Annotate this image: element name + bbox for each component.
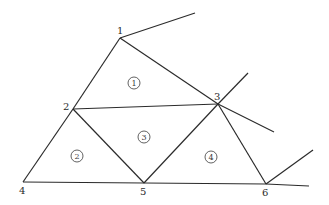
open-edge-from-6 bbox=[266, 150, 313, 184]
node-label-2: 2 bbox=[63, 101, 69, 112]
open-edge-from-6 bbox=[266, 184, 309, 186]
edge-1-2 bbox=[73, 38, 120, 109]
edge-2-5 bbox=[73, 109, 144, 183]
node-label-5: 5 bbox=[140, 186, 146, 197]
element-number: 3 bbox=[141, 133, 146, 142]
edge-2-3 bbox=[73, 104, 218, 109]
mesh-diagram: 1234 123456 bbox=[0, 0, 329, 205]
element-marker-3: 3 bbox=[138, 131, 150, 143]
mesh-edges bbox=[23, 38, 266, 184]
element-marker-4: 4 bbox=[205, 151, 217, 163]
element-number: 4 bbox=[208, 153, 213, 162]
element-number: 1 bbox=[131, 79, 136, 88]
element-labels: 1234 bbox=[71, 77, 217, 163]
node-label-6: 6 bbox=[262, 187, 268, 198]
node-label-3: 3 bbox=[214, 91, 220, 102]
node-label-1: 1 bbox=[117, 25, 123, 36]
node-label-4: 4 bbox=[19, 185, 25, 196]
edge-3-5 bbox=[144, 104, 218, 183]
element-marker-2: 2 bbox=[71, 150, 83, 162]
open-edge-from-1 bbox=[120, 13, 195, 38]
edge-1-3 bbox=[120, 38, 218, 104]
element-marker-1: 1 bbox=[128, 77, 140, 89]
element-number: 2 bbox=[74, 152, 79, 161]
edge-2-4 bbox=[23, 109, 73, 182]
edge-5-6 bbox=[144, 183, 266, 184]
node-labels: 123456 bbox=[19, 25, 268, 198]
open-edge-from-3 bbox=[218, 73, 248, 104]
edge-4-5 bbox=[23, 182, 144, 183]
